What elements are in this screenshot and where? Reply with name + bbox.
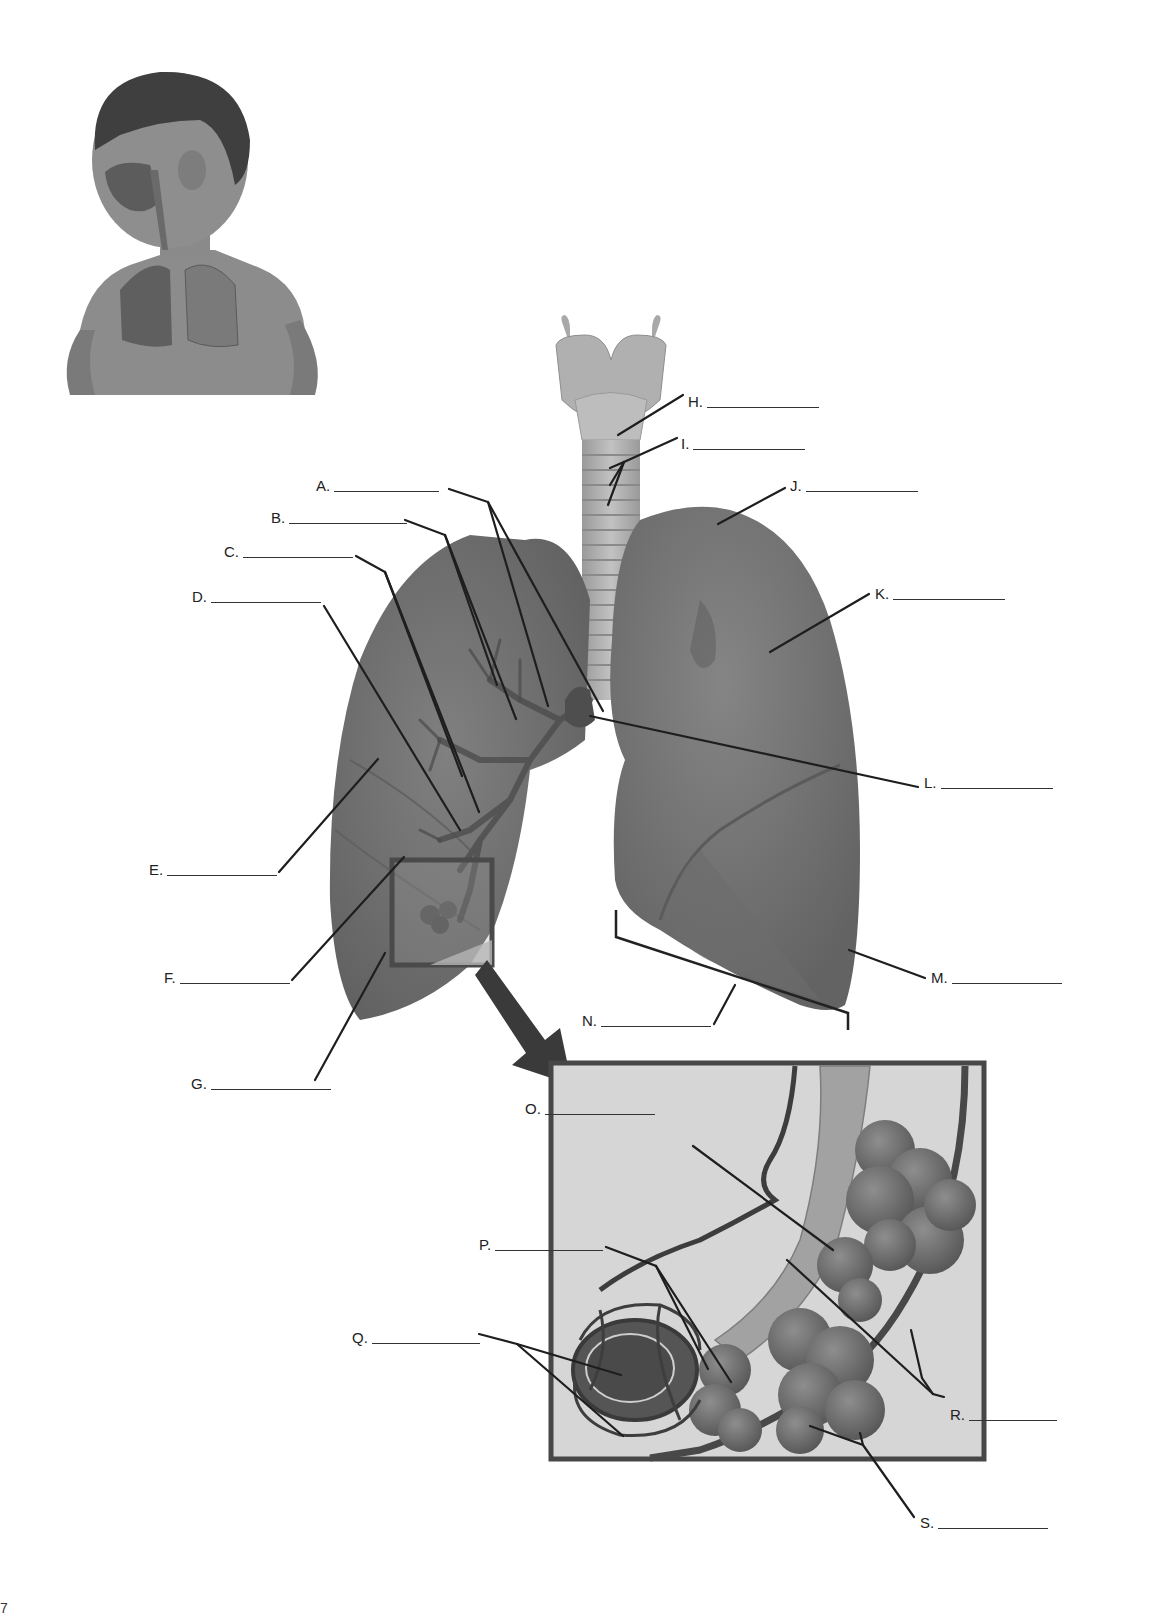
label-l: L.: [924, 775, 1053, 791]
label-b: B.: [271, 510, 407, 526]
answer-blank-g[interactable]: [211, 1089, 331, 1090]
label-letter: E.: [149, 862, 163, 878]
answer-blank-e[interactable]: [167, 875, 277, 876]
label-h: H.: [688, 394, 819, 410]
answer-blank-s[interactable]: [938, 1528, 1048, 1529]
answer-blank-b[interactable]: [289, 523, 407, 524]
label-letter: P.: [479, 1237, 491, 1253]
answer-blank-q[interactable]: [372, 1343, 480, 1344]
answer-blank-f[interactable]: [180, 983, 290, 984]
label-q: Q.: [352, 1330, 480, 1346]
answer-blank-m[interactable]: [952, 983, 1062, 984]
label-letter: D.: [192, 589, 207, 605]
label-j: J.: [790, 478, 918, 494]
diagram-stage: A. B. C. D. E. F. G. H. I. J. K. L.: [0, 0, 1167, 1618]
label-letter: O.: [525, 1101, 541, 1117]
answer-blank-i[interactable]: [693, 449, 805, 450]
larynx-illustration: [556, 315, 666, 440]
label-e: E.: [149, 862, 277, 878]
label-letter: C.: [224, 544, 239, 560]
answer-blank-k[interactable]: [893, 599, 1005, 600]
label-letter: G.: [191, 1076, 207, 1092]
right-lung-illustration: [330, 535, 595, 1020]
label-p: P.: [479, 1237, 603, 1253]
label-f: F.: [164, 970, 290, 986]
label-d: D.: [192, 589, 321, 605]
answer-blank-r[interactable]: [969, 1420, 1057, 1421]
label-g: G.: [191, 1076, 331, 1092]
corner-page-mark: 7: [0, 1600, 8, 1616]
label-letter: Q.: [352, 1330, 368, 1346]
answer-blank-a[interactable]: [334, 491, 439, 492]
label-letter: F.: [164, 970, 176, 986]
label-letter: A.: [316, 478, 330, 494]
answer-blank-p[interactable]: [495, 1250, 603, 1251]
label-letter: N.: [582, 1013, 597, 1029]
label-letter: J.: [790, 478, 802, 494]
label-letter: H.: [688, 394, 703, 410]
answer-blank-h[interactable]: [707, 407, 819, 408]
respiratory-diagram: [0, 0, 1167, 1618]
answer-blank-j[interactable]: [806, 491, 918, 492]
label-letter: M.: [931, 970, 948, 986]
label-letter: K.: [875, 586, 889, 602]
label-letter: S.: [920, 1515, 934, 1531]
label-o: O.: [525, 1101, 655, 1117]
label-letter: R.: [950, 1407, 965, 1423]
label-n: N.: [582, 1013, 711, 1029]
left-lung-illustration: [610, 507, 860, 1010]
alveoli-inset: [551, 1063, 984, 1459]
child-figure-image: [67, 72, 318, 395]
label-m: M.: [931, 970, 1062, 986]
answer-blank-l[interactable]: [941, 788, 1053, 789]
label-k: K.: [875, 586, 1005, 602]
label-letter: B.: [271, 510, 285, 526]
label-letter: I.: [681, 436, 689, 452]
answer-blank-o[interactable]: [545, 1114, 655, 1115]
label-r: R.: [950, 1407, 1057, 1423]
answer-blank-n[interactable]: [601, 1026, 711, 1027]
label-a: A.: [316, 478, 439, 494]
answer-blank-d[interactable]: [211, 602, 321, 603]
label-c: C.: [224, 544, 353, 560]
label-letter: L.: [924, 775, 937, 791]
label-i: I.: [681, 436, 805, 452]
answer-blank-c[interactable]: [243, 557, 353, 558]
label-s: S.: [920, 1515, 1048, 1531]
